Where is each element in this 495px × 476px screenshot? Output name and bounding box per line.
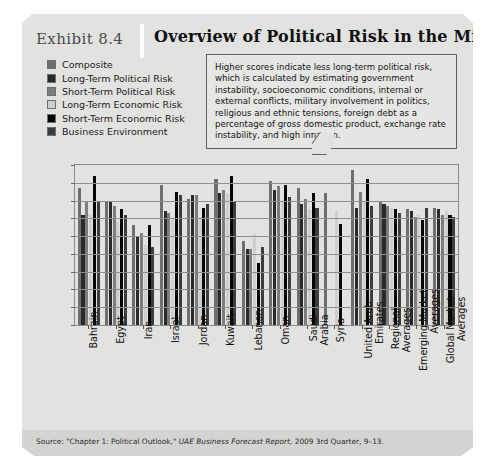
x-axis-label: RegionalAverages (377, 328, 405, 424)
y-axis-tick-label: 60 (0, 211, 16, 222)
legend-swatch-icon (47, 100, 56, 109)
x-axis-label: SaudiArabia (294, 328, 322, 424)
bar-group (130, 165, 157, 325)
x-axis-label: Jordan (184, 328, 212, 424)
x-axis-label-text: Iran (143, 321, 154, 340)
source-bar: Source: "Chapter 1: Political Outlook," … (22, 430, 473, 456)
bar (324, 193, 327, 325)
bar (339, 224, 342, 325)
page-title: Overview of Political Risk in the Middle… (154, 27, 495, 46)
bar (195, 195, 198, 325)
bar (78, 188, 81, 325)
x-axis-label: Global MarketAverages (432, 328, 460, 424)
callout-tail (312, 132, 334, 155)
y-axis-tick-mark (71, 289, 75, 290)
y-axis-tick-mark (71, 165, 75, 166)
legend-swatch-icon (47, 87, 56, 96)
y-axis-tick-label: 90 (0, 158, 16, 169)
y-axis-tick-label: 70 (0, 194, 16, 205)
x-axis-label: United ArabEmirates (349, 328, 377, 424)
legend-swatch-icon (47, 114, 56, 123)
x-axis-label-text: Lebanon (253, 309, 264, 350)
x-axis-label: Syria (322, 328, 350, 424)
x-axis-label: Oman (267, 328, 295, 424)
grid-line (75, 218, 458, 219)
bar-group (294, 165, 321, 325)
legend-label: Short-Term Economic Risk (62, 113, 185, 124)
x-axis-label: Bahrain (74, 328, 102, 424)
bar (140, 233, 143, 325)
y-axis-tick-mark (71, 218, 75, 219)
plot-area (75, 165, 458, 325)
legend-item: Composite (47, 58, 222, 71)
source-note: Source: "Chapter 1: Political Outlook," … (36, 437, 384, 446)
bar-chart: 0102030405060708090 (74, 164, 459, 326)
bar (312, 193, 315, 325)
y-axis-tick-label: 80 (0, 176, 16, 187)
grid-line (75, 201, 458, 202)
bar-group (157, 165, 184, 325)
x-axis-label-text: Jordan (198, 315, 209, 346)
bar (191, 195, 194, 325)
y-axis-tick-label: 20 (0, 282, 16, 293)
grid-line (75, 272, 458, 273)
bar-group (321, 165, 348, 325)
legend-swatch-icon (47, 74, 56, 83)
legend-label: Business Environment (62, 126, 168, 137)
legend-item: Long-Term Economic Risk (47, 98, 222, 111)
bar (148, 225, 151, 325)
bar (81, 215, 84, 325)
x-axis-label-text: Egypt (115, 316, 126, 344)
y-axis-tick-label: 50 (0, 229, 16, 240)
y-axis-tick-label: 40 (0, 247, 16, 258)
bar (277, 186, 280, 325)
bar (175, 192, 178, 325)
y-axis-tick-mark (71, 325, 75, 326)
legend-swatch-icon (47, 127, 56, 136)
x-axis-label: Egypt (102, 328, 130, 424)
bar (124, 215, 127, 325)
bar (226, 193, 229, 325)
bar (93, 176, 96, 325)
grid-line (75, 183, 458, 184)
y-axis-tick-label: 0 (0, 318, 16, 329)
bar (116, 222, 119, 325)
y-axis-tick-mark (71, 307, 75, 308)
x-axis-label-text: Oman (280, 316, 291, 345)
bar (297, 188, 300, 325)
x-axis-label-text: Kuwait (225, 314, 236, 346)
x-axis-label-text: Syria (335, 318, 346, 342)
bar (230, 176, 233, 325)
legend-swatch-icon (47, 60, 56, 69)
legend-label: Long-Term Political Risk (62, 73, 173, 84)
x-axis-label: Israel (157, 328, 185, 424)
x-axis-label: Kuwait (212, 328, 240, 424)
bar (136, 236, 139, 325)
y-axis-tick-mark (71, 201, 75, 202)
grid-line (75, 236, 458, 237)
y-axis-tick-label: 10 (0, 300, 16, 311)
header-divider (140, 24, 144, 58)
bar (218, 193, 221, 325)
bar-group (102, 165, 129, 325)
legend-item: Short-Term Political Risk (47, 85, 222, 98)
bar-group (75, 165, 102, 325)
legend-label: Short-Term Political Risk (62, 86, 175, 97)
bar (132, 225, 135, 325)
bar (441, 215, 444, 325)
legend-item: Long-Term Political Risk (47, 71, 222, 84)
x-axis-label-text: Global MarketAverages (445, 297, 467, 364)
x-axis-labels: BahrainEgyptIranIsraelJordanKuwaitLebano… (74, 328, 459, 424)
grid-line (75, 165, 458, 166)
bar-group (212, 165, 239, 325)
bar (246, 249, 249, 325)
legend-label: Composite (62, 59, 113, 70)
y-axis-tick-mark (71, 236, 75, 237)
grid-line (75, 289, 458, 290)
grid-line (75, 254, 458, 255)
bar (179, 195, 182, 325)
x-axis-label: Iran (129, 328, 157, 424)
x-axis-label: Lebanon (239, 328, 267, 424)
bar (288, 197, 291, 325)
exhibit-panel: Exhibit 8.4 Overview of Political Risk i… (22, 14, 473, 456)
